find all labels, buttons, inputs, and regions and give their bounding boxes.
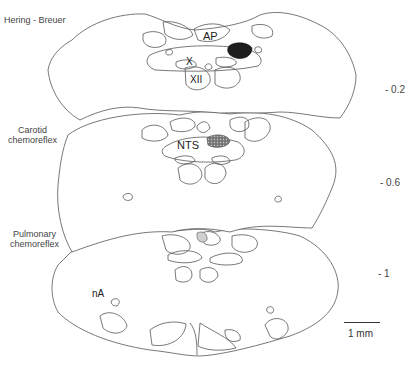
structure-label-xii: XII xyxy=(190,74,202,85)
section-hering-breuer xyxy=(48,12,356,120)
structure-label-ap: AP xyxy=(203,30,218,42)
scale-bar xyxy=(344,322,380,323)
section-label-hering-breuer: Hering - Breuer xyxy=(4,15,66,25)
section-label-line: chemoreflex xyxy=(8,135,57,145)
section-label-carotid: Carotid chemoreflex xyxy=(8,125,57,145)
level-marker: - 0.2 xyxy=(385,84,405,95)
section-label-line: Carotid xyxy=(8,125,57,135)
structure-label-x: X xyxy=(186,56,193,67)
structure-label-nts: NTS xyxy=(177,139,199,151)
structure-label-na: nA xyxy=(92,288,104,299)
brainstem-sections-drawing xyxy=(0,0,415,368)
scale-bar-label: 1 mm xyxy=(348,328,373,339)
section-label-line: chemoreflex xyxy=(10,239,59,249)
level-marker: - 0.6 xyxy=(380,177,400,188)
section-label-line: Pulmonary xyxy=(10,229,59,239)
level-marker: - 1 xyxy=(378,268,390,279)
section-label-pulmonary: Pulmonary chemoreflex xyxy=(10,229,59,249)
